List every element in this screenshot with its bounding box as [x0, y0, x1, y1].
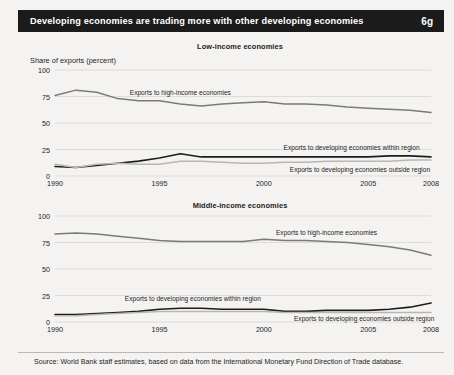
x-tick-label: 2008 [423, 179, 439, 188]
plot-area-low-income: 025507510019901995200020052008Exports to… [55, 70, 431, 176]
source-note: Source: World Bank staff estimates, base… [34, 358, 403, 366]
y-tick-label: 50 [28, 119, 50, 128]
y-tick-label: 25 [28, 145, 50, 154]
series-annotation-outside-region: Exports to developing economies outside … [290, 166, 430, 173]
x-tick-label: 2005 [360, 179, 376, 188]
y-tick-label: 50 [28, 265, 50, 274]
x-tick-label: 2000 [256, 179, 272, 188]
y-tick-label: 75 [28, 92, 50, 101]
series-annotation-within-region: Exports to developing economies within r… [284, 143, 420, 150]
series-line [55, 233, 431, 255]
chart-title-middle-income: Middle-income economies [0, 201, 454, 210]
series-line [55, 90, 431, 112]
figure-header: Developing economies are trading more wi… [18, 10, 444, 32]
x-tick-label: 2005 [360, 325, 376, 334]
chart-title-low-income: Low-income economies [0, 42, 454, 51]
figure-number: 6g [421, 16, 433, 27]
x-tick-label: 1990 [47, 325, 63, 334]
series-annotation-high-income: Exports to high-income economies [130, 88, 231, 95]
chart-svg [55, 70, 431, 176]
x-tick-label: 1990 [47, 179, 63, 188]
series-annotation-high-income: Exports to high-income economies [276, 229, 377, 236]
figure-page: Developing economies are trading more wi… [0, 0, 454, 375]
x-tick-label: 1995 [151, 325, 167, 334]
plot-area-middle-income: 025507510019901995200020052008Exports to… [55, 216, 431, 322]
y-tick-label: 75 [28, 238, 50, 247]
series-annotation-within-region: Exports to developing economies within r… [125, 295, 261, 302]
y-axis-caption: Share of exports (percent) [30, 56, 116, 65]
y-tick-label: 100 [28, 66, 50, 75]
y-tick-label: 100 [28, 212, 50, 221]
footer-divider [18, 352, 444, 353]
chart-panel-low-income: Low-income economies Share of exports (p… [0, 38, 454, 198]
chart-panel-middle-income: Middle-income economies 0255075100199019… [0, 198, 454, 348]
figure-title: Developing economies are trading more wi… [30, 16, 364, 26]
x-tick-label: 1995 [151, 179, 167, 188]
series-annotation-outside-region: Exports to developing economies outside … [294, 315, 434, 322]
x-tick-label: 2008 [423, 325, 439, 334]
y-tick-label: 25 [28, 291, 50, 300]
x-tick-label: 2000 [256, 325, 272, 334]
